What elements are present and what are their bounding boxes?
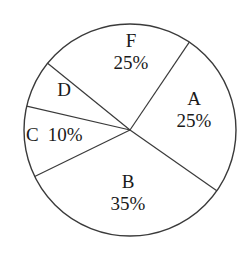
pie-chart-figure: F 25% A 25% B 35% C 10% D	[0, 0, 246, 253]
slice-label-a: A 25%	[157, 88, 231, 132]
slice-label-b: B 35%	[85, 171, 171, 215]
slice-label-c-name: C	[26, 124, 39, 145]
slice-label-f-name: F	[88, 30, 174, 52]
slice-label-d: D	[44, 79, 84, 101]
slice-label-f: F 25%	[88, 30, 174, 74]
slice-label-f-value: 25%	[88, 52, 174, 74]
slice-label-a-value: 25%	[157, 110, 231, 132]
slice-label-b-value: 35%	[85, 193, 171, 215]
slice-label-a-name: A	[157, 88, 231, 110]
slice-label-c: C 10%	[26, 124, 112, 146]
slice-label-d-name: D	[44, 79, 84, 101]
slice-label-b-name: B	[85, 171, 171, 193]
slice-label-c-value: 10%	[48, 124, 83, 145]
